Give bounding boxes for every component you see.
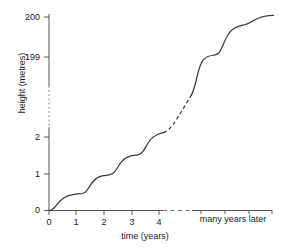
y-tick-label-0: 0 xyxy=(14,206,40,215)
y-tick-label-1: 1 xyxy=(14,170,40,179)
growth-curve-dashed-break xyxy=(164,97,191,133)
x-tick-label-4: 4 xyxy=(156,218,161,227)
many-years-later-annotation: many years later xyxy=(200,214,267,224)
y-tick-label-200: 200 xyxy=(14,13,40,22)
x-axis-title: time (years) xyxy=(0,231,290,241)
x-tick-label-2: 2 xyxy=(101,218,106,227)
x-tick-label-3: 3 xyxy=(129,218,134,227)
growth-curve-solid-lower xyxy=(49,133,164,211)
growth-curve-solid-upper xyxy=(191,15,274,96)
y-axis-title: height (metres) xyxy=(17,23,27,143)
chart-container: 200 199 2 1 0 0 1 2 3 4 many years later… xyxy=(0,0,290,251)
x-tick-label-1: 1 xyxy=(73,218,78,227)
x-tick-label-0: 0 xyxy=(46,218,51,227)
